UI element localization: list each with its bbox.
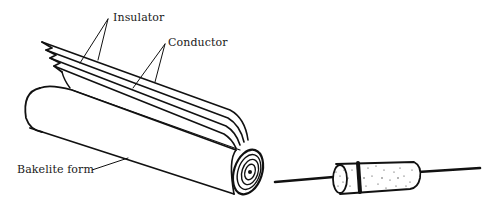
finished-capacitor [275,162,480,194]
bakelite-leader [92,158,128,170]
insulator-label: Insulator [113,11,164,24]
capacitor-diagram: Insulator Conductor Bakelite form [0,0,498,205]
insulator-leaders [80,19,108,63]
bakelite-form-label: Bakelite form [17,163,94,176]
layer-strips [42,42,248,148]
coil-end [228,146,269,198]
conductor-label: Conductor [168,36,228,49]
